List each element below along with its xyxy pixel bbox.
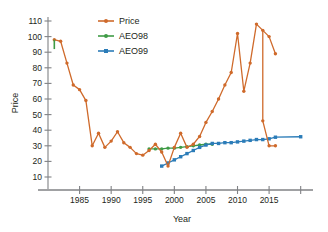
x-axis-tick-label: 1990 [102,195,121,205]
data-point [65,61,68,64]
data-point [185,146,188,149]
y-axis-tick-label: 110 [28,16,42,26]
x-axis-tick-label: 2010 [228,195,247,205]
data-point [299,135,302,138]
legend-label: AEO98 [119,31,148,41]
y-axis-tick-label: 70 [33,78,43,88]
data-point [229,141,232,144]
data-point [91,144,94,147]
data-point [97,132,100,135]
y-axis-tick-label: 20 [33,156,43,166]
data-point [242,90,245,93]
legend-swatch-marker [104,34,108,38]
x-axis-tick-label: 1995 [133,195,152,205]
data-point [274,144,277,147]
data-point [141,153,144,156]
data-point [173,158,176,161]
series-price [53,22,277,167]
data-point [116,130,119,133]
data-point [192,143,195,146]
y-axis-tick-label: 100 [28,32,42,42]
data-point [173,146,176,149]
legend-swatch-marker [104,49,108,53]
data-point [236,140,239,143]
y-axis-tick-label: 60 [33,94,43,104]
y-axis-tick-label: 10 [33,172,43,182]
series-line-price [54,24,275,166]
data-point [109,139,112,142]
data-point [103,146,106,149]
data-point [166,146,169,149]
x-axis-tick-label: 1985 [70,195,89,205]
data-point [267,144,270,147]
chart-legend: PriceAEO98AEO99 [98,16,148,56]
series-aeo99 [160,135,302,168]
legend-label: Price [119,16,140,26]
data-series-group [53,22,303,167]
data-point [223,141,226,144]
data-point [236,32,239,35]
y-axis-tick-label: 80 [33,63,43,73]
x-axis-tick-label: 2005 [196,195,215,205]
data-point [84,99,87,102]
data-point [59,40,62,43]
y-axis-title: Price [10,93,20,114]
data-point [229,71,232,74]
data-point [217,97,220,100]
x-axis: 1985199019952000200520102015 [38,186,313,205]
x-axis-tick-label: 2000 [165,195,184,205]
y-axis-tick-label: 30 [33,141,43,151]
data-point [147,149,150,152]
data-point [198,135,201,138]
data-point [198,146,201,149]
y-axis-tick-label: 50 [33,110,43,120]
data-point [204,143,207,146]
data-point [135,152,138,155]
data-point [242,139,245,142]
data-point [274,52,277,55]
y-axis: 102030405060708090100110 [28,16,52,189]
data-point [179,155,182,158]
data-point [179,146,182,149]
x-axis-title: Year [173,214,191,224]
legend-swatch-marker [104,19,108,23]
data-point [166,164,169,167]
legend-label: AEO99 [119,46,148,56]
data-point [267,35,270,38]
data-point [154,147,157,150]
data-point [255,138,258,141]
data-point [154,143,157,146]
data-point [160,150,163,153]
data-point [78,88,81,91]
data-point [255,22,258,25]
data-point [192,149,195,152]
y-axis-tick-label: 40 [33,125,43,135]
data-point [211,110,214,113]
price-line-chart: 102030405060708090100110 198519901995200… [0,0,328,232]
data-point [223,83,226,86]
data-point [128,146,131,149]
data-point [185,152,188,155]
data-point [261,138,264,141]
data-point [274,136,277,139]
data-point [248,139,251,142]
data-point [122,141,125,144]
chart-container: 102030405060708090100110 198519901995200… [0,0,328,232]
x-axis-tick-label: 2015 [260,195,279,205]
y-axis-tick-label: 90 [33,47,43,57]
data-point [160,164,163,167]
data-point [217,142,220,145]
series-price-tail [261,30,277,147]
data-point [211,142,214,145]
data-point [248,61,251,64]
data-point [72,83,75,86]
data-point [204,121,207,124]
series-line-price-tail [263,121,276,146]
data-point [179,132,182,135]
